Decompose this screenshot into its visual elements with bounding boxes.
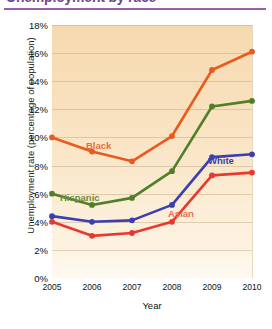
series-label-white: White xyxy=(208,155,234,166)
data-point-black-2009 xyxy=(209,67,215,73)
line-chart: Unemployment rate (percentage of populat… xyxy=(0,12,272,329)
data-point-hispanic-2008 xyxy=(169,168,175,174)
data-point-black-2008 xyxy=(169,133,175,139)
data-point-black-2010 xyxy=(249,49,255,55)
data-point-white-2005 xyxy=(49,213,55,219)
data-point-white-2006 xyxy=(89,219,95,225)
data-point-white-2008 xyxy=(169,202,175,208)
data-point-asian-2006 xyxy=(89,233,95,239)
data-point-hispanic-2009 xyxy=(209,104,215,110)
series-line-black xyxy=(52,52,252,162)
data-point-white-2010 xyxy=(249,151,255,157)
data-point-white-2007 xyxy=(129,217,135,223)
page-title: Unemployment by race xyxy=(6,0,156,5)
data-point-asian-2010 xyxy=(249,170,255,176)
data-point-hispanic-2005 xyxy=(49,191,55,197)
series-line-hispanic xyxy=(52,101,252,205)
data-point-black-2005 xyxy=(49,135,55,141)
title-divider xyxy=(4,8,266,10)
data-point-asian-2007 xyxy=(129,230,135,236)
data-point-hispanic-2010 xyxy=(249,98,255,104)
data-point-asian-2009 xyxy=(209,172,215,178)
data-point-hispanic-2007 xyxy=(129,195,135,201)
chart-title-band: Unemployment by race xyxy=(0,0,272,12)
series-label-black: Black xyxy=(86,140,111,151)
series-layer xyxy=(0,12,272,329)
series-label-hispanic: Hispanic xyxy=(60,192,100,203)
data-point-black-2007 xyxy=(129,158,135,164)
series-line-asian xyxy=(52,173,252,236)
series-label-asian: Asian xyxy=(168,208,194,219)
data-point-asian-2008 xyxy=(169,219,175,225)
data-point-asian-2005 xyxy=(49,219,55,225)
x-axis-title: Year xyxy=(52,300,252,311)
